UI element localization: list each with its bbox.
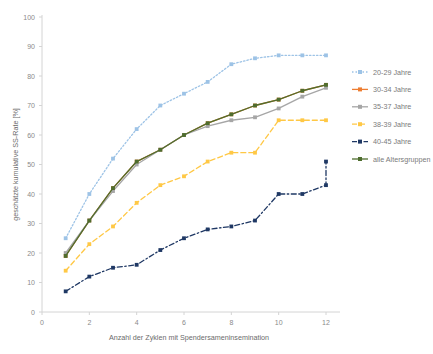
legend-label: 38-39 Jahre — [373, 120, 411, 129]
data-point — [300, 118, 304, 122]
series-line — [66, 55, 326, 238]
y-tick-label: 20 — [27, 250, 35, 257]
data-point — [158, 148, 162, 152]
x-axis-title: Anzahl der Zyklen mit Spendersameninsemi… — [109, 333, 269, 342]
y-tick-label: 40 — [27, 191, 35, 198]
data-point — [111, 157, 115, 161]
legend-item-35-37-jahre[interactable]: 35-37 Jahre — [352, 102, 411, 111]
legend-item-20-29-jahre[interactable]: 20-29 Jahre — [352, 68, 411, 77]
data-point — [324, 53, 328, 57]
data-point — [206, 80, 210, 84]
data-point — [324, 183, 328, 187]
data-point — [135, 201, 139, 205]
data-point — [158, 104, 162, 108]
data-point — [277, 98, 281, 102]
legend-marker-swatch — [358, 105, 362, 109]
series-line — [66, 120, 326, 270]
data-point — [253, 56, 257, 60]
legend-item-40-45-jahre[interactable]: 40-45 Jahre — [352, 137, 411, 146]
data-point — [111, 266, 115, 270]
data-point — [300, 95, 304, 99]
x-tick-label: 2 — [87, 319, 91, 326]
legend-label: 35-37 Jahre — [373, 102, 411, 111]
series-38-39-jahre — [64, 118, 328, 272]
series-layer — [64, 53, 328, 293]
legend-marker-swatch — [358, 70, 362, 74]
x-tick-label: 6 — [182, 319, 186, 326]
x-tick-label: 12 — [322, 319, 330, 326]
data-point — [64, 269, 68, 273]
chart-container: 0102030405060708090100024681012 20-29 Ja… — [0, 0, 433, 354]
data-point — [229, 225, 233, 229]
data-point — [206, 160, 210, 164]
y-tick-label: 80 — [27, 73, 35, 80]
data-point — [158, 183, 162, 187]
legend-label: 30-34 Jahre — [373, 85, 411, 94]
data-point — [158, 248, 162, 252]
series-line — [66, 162, 326, 292]
data-point — [324, 118, 328, 122]
data-point — [87, 275, 91, 279]
data-point — [324, 83, 328, 87]
legend-item-30-34-jahre[interactable]: 30-34 Jahre — [352, 85, 411, 94]
data-point — [253, 219, 257, 223]
legend-marker-swatch — [358, 140, 362, 144]
data-point — [277, 192, 281, 196]
data-point — [229, 118, 233, 122]
y-tick-label: 50 — [27, 161, 35, 168]
data-point — [182, 236, 186, 240]
data-point — [87, 219, 91, 223]
legend-item-38-39-jahre[interactable]: 38-39 Jahre — [352, 120, 411, 129]
data-point — [87, 192, 91, 196]
legend-label: alle Altersgruppen — [373, 155, 431, 164]
legend-marker-swatch — [358, 157, 362, 161]
x-tick-label: 4 — [135, 319, 139, 326]
data-point — [64, 289, 68, 293]
legend-layer: 20-29 Jahre30-34 Jahre35-37 Jahre38-39 J… — [352, 68, 431, 164]
data-point — [300, 89, 304, 93]
series-35-37-jahre — [64, 86, 328, 255]
y-tick-label: 70 — [27, 102, 35, 109]
data-point — [87, 242, 91, 246]
data-point — [300, 192, 304, 196]
data-point — [64, 236, 68, 240]
series-40-45-jahre — [64, 160, 328, 294]
data-point — [229, 112, 233, 116]
data-point — [182, 174, 186, 178]
data-point — [135, 127, 139, 131]
line-chart: 0102030405060708090100024681012 20-29 Ja… — [0, 0, 433, 354]
legend-marker-swatch — [358, 122, 362, 126]
legend-label: 20-29 Jahre — [373, 68, 411, 77]
data-point — [277, 53, 281, 57]
data-point — [135, 263, 139, 267]
y-tick-label: 0 — [31, 309, 35, 316]
data-point — [64, 254, 68, 258]
axis-layer: 0102030405060708090100024681012 — [23, 14, 340, 327]
data-point — [253, 104, 257, 108]
data-point — [229, 151, 233, 155]
data-point — [111, 186, 115, 190]
data-point — [229, 62, 233, 66]
series-30-34-jahre — [64, 83, 328, 258]
y-axis-title: geschätzte kumulative SS-Rate [%] — [11, 108, 20, 221]
legend-item-alle-altersgruppen[interactable]: alle Altersgruppen — [352, 155, 431, 164]
data-point — [111, 225, 115, 229]
y-tick-label: 30 — [27, 220, 35, 227]
x-tick-label: 10 — [275, 319, 283, 326]
data-point — [253, 151, 257, 155]
data-point — [253, 115, 257, 119]
y-tick-label: 60 — [27, 132, 35, 139]
y-tick-label: 100 — [23, 14, 35, 21]
data-point — [277, 107, 281, 111]
data-point — [206, 228, 210, 232]
data-point — [182, 92, 186, 96]
y-tick-label: 10 — [27, 279, 35, 286]
series-alle-altersgruppen — [64, 83, 328, 258]
y-tick-label: 90 — [27, 43, 35, 50]
x-tick-label: 0 — [40, 319, 44, 326]
data-point — [206, 121, 210, 125]
series-20-29-jahre — [64, 53, 328, 240]
data-point — [277, 118, 281, 122]
data-point — [324, 160, 328, 164]
legend-label: 40-45 Jahre — [373, 137, 411, 146]
